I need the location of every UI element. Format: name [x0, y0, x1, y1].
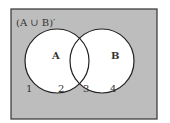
diagram-title: (A ∪ B)′ — [16, 17, 56, 28]
set-b-label: B — [111, 50, 119, 61]
set-a-label: A — [51, 50, 60, 61]
region-4-label: 4 — [110, 83, 116, 94]
venn-diagram: (A ∪ B)′ A B 1 2 3 4 — [0, 0, 170, 123]
region-3-label: 3 — [83, 83, 89, 94]
region-2-label: 2 — [58, 83, 64, 94]
region-1-label: 1 — [26, 83, 32, 94]
